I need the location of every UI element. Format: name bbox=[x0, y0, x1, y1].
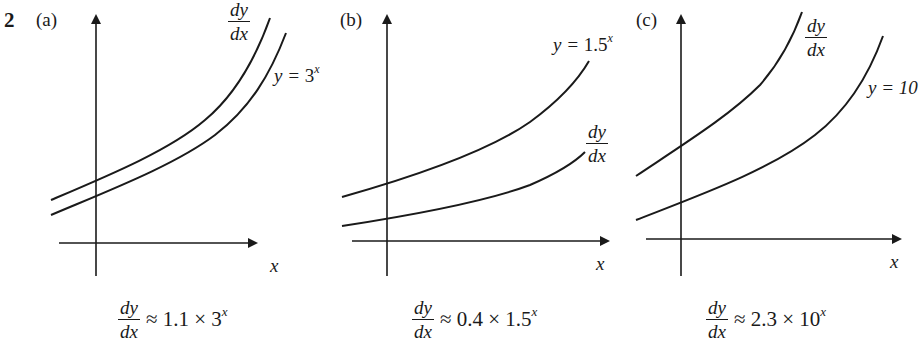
panel-b-label: (b) bbox=[340, 10, 362, 29]
panel-a-label: (a) bbox=[36, 10, 57, 29]
fraction-denominator: dx bbox=[228, 22, 250, 43]
fraction-numerator: dy bbox=[586, 122, 608, 144]
panel-b-function-label: y = 1.5x bbox=[553, 35, 613, 54]
function-label-exponent: x bbox=[314, 62, 319, 76]
formula-fraction: dy dx bbox=[412, 298, 434, 341]
fraction-denominator: dx bbox=[118, 320, 140, 341]
formula-rhs-text: ≈ 0.4 × 1.5 bbox=[440, 307, 532, 331]
fraction-denominator: dx bbox=[706, 320, 728, 341]
panel-b-x-axis-label: x bbox=[596, 254, 604, 273]
formula-rhs-text: ≈ 2.3 × 10 bbox=[734, 307, 820, 331]
panel-c-label: (c) bbox=[636, 10, 657, 29]
function-label-base: 1.5 bbox=[584, 34, 608, 55]
fraction-denominator: dx bbox=[412, 320, 434, 341]
panel-c-formula: dy dx ≈ 2.3 × 10x bbox=[706, 298, 826, 341]
formula-rhs: ≈ 1.1 × 3x bbox=[146, 307, 228, 332]
formula-rhs-exponent: x bbox=[222, 304, 228, 319]
fraction-numerator: dy bbox=[228, 0, 250, 22]
panel-a-graph bbox=[51, 16, 286, 276]
fraction-numerator: dy bbox=[412, 298, 434, 320]
panel-b-derivative-label: dy dx bbox=[586, 122, 608, 165]
panel-c-graph bbox=[636, 12, 900, 276]
function-label-prefix: y = 10 bbox=[868, 77, 918, 98]
fraction-numerator: dy bbox=[805, 16, 827, 38]
panel-b-function-curve bbox=[342, 61, 589, 197]
function-label-base: 3 bbox=[305, 65, 315, 86]
panel-c-function-curve bbox=[636, 36, 883, 220]
fraction-numerator: dy bbox=[706, 298, 728, 320]
question-number: 2 bbox=[4, 10, 15, 31]
function-label-prefix: y = bbox=[274, 65, 305, 86]
formula-rhs-exponent: x bbox=[820, 304, 826, 319]
panel-a-derivative-label: dy dx bbox=[228, 0, 250, 43]
fraction-denominator: dx bbox=[805, 38, 827, 59]
formula-fraction: dy dx bbox=[118, 298, 140, 341]
function-label-prefix: y = bbox=[553, 34, 584, 55]
formula-rhs: ≈ 0.4 × 1.5x bbox=[440, 307, 537, 332]
fraction-denominator: dx bbox=[586, 144, 608, 165]
panel-c-function-label: y = 10 bbox=[868, 78, 918, 97]
formula-rhs-exponent: x bbox=[532, 304, 538, 319]
panel-a-derivative-curve bbox=[51, 18, 270, 200]
panel-b-graph bbox=[342, 16, 608, 276]
panel-b-derivative-curve bbox=[342, 152, 585, 226]
panel-c-derivative-curve bbox=[636, 12, 802, 176]
formula-rhs: ≈ 2.3 × 10x bbox=[734, 307, 826, 332]
function-label-exponent: x bbox=[608, 31, 613, 45]
panel-a-function-label: y = 3x bbox=[274, 66, 320, 85]
panel-c-x-axis-label: x bbox=[890, 252, 898, 271]
panel-b-formula: dy dx ≈ 0.4 × 1.5x bbox=[412, 298, 537, 341]
panel-a-formula: dy dx ≈ 1.1 × 3x bbox=[118, 298, 228, 341]
fraction-numerator: dy bbox=[118, 298, 140, 320]
formula-rhs-text: ≈ 1.1 × 3 bbox=[146, 307, 222, 331]
formula-fraction: dy dx bbox=[706, 298, 728, 341]
panel-c-derivative-label: dy dx bbox=[805, 16, 827, 59]
panel-a-x-axis-label: x bbox=[270, 256, 278, 275]
